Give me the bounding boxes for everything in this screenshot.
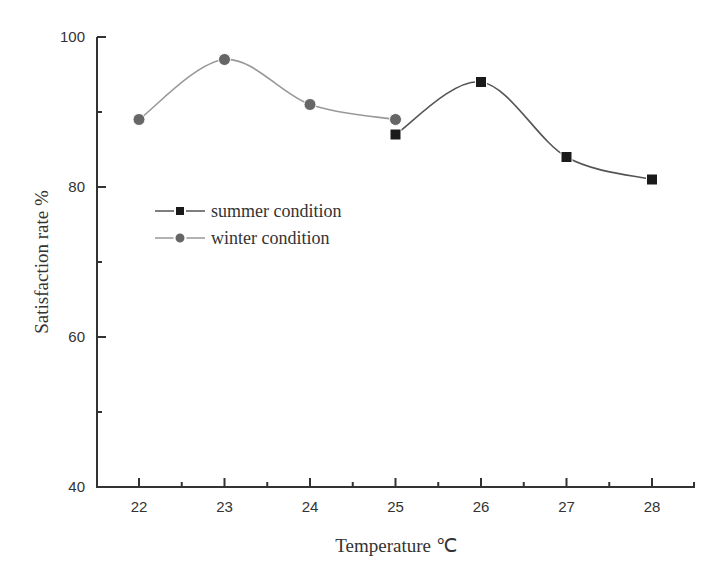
legend-circle-marker [175,233,186,244]
summer-condition-line [396,82,653,180]
y-axis-title: Satisfaction rate % [31,190,52,334]
x-axis-title: Temperature ℃ [335,535,456,556]
legend-square-marker [175,206,185,216]
y-tick-label: 100 [60,28,85,45]
legend: summer conditionwinter condition [155,201,341,248]
y-tick-label: 60 [68,328,85,345]
y-tick-label: 40 [68,478,85,495]
y-tick-label: 80 [68,178,85,195]
x-tick-label: 24 [302,498,319,515]
winter-condition-point [304,99,316,111]
winter-condition-line [139,59,396,119]
winter-condition-point [390,114,402,126]
legend-label: winter condition [211,228,329,248]
summer-condition-point [476,77,487,88]
legend-item-winter-condition: winter condition [155,228,329,248]
legend-label: summer condition [211,201,341,221]
summer-condition-point [561,152,572,163]
winter-condition-point [219,54,231,66]
x-tick-label: 27 [558,498,575,515]
summer-condition-point [647,174,658,185]
series-markers [133,54,658,186]
ticks: 40608010022232425262728 [60,28,694,515]
x-tick-label: 22 [131,498,148,515]
winter-condition-point [133,114,145,126]
x-tick-label: 28 [644,498,661,515]
x-tick-label: 26 [473,498,490,515]
summer-condition-point [390,129,401,140]
chart: 40608010022232425262728 Temperature ℃ Sa… [0,0,726,579]
x-tick-label: 25 [387,498,404,515]
legend-item-summer-condition: summer condition [155,201,341,221]
x-tick-label: 23 [216,498,233,515]
axes [97,37,695,488]
